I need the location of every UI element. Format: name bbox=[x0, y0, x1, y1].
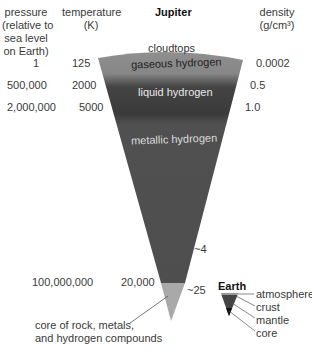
pressure-value: 1 bbox=[33, 57, 39, 70]
temperature-value: 5000 bbox=[79, 101, 103, 114]
pressure-header-line: pressure bbox=[2, 6, 50, 19]
pressure-value: 100,000,000 bbox=[32, 276, 93, 289]
temperature-header: temperature (K) bbox=[62, 6, 120, 32]
temperature-value: 20,000 bbox=[121, 276, 155, 289]
density-value: 0.0002 bbox=[256, 57, 290, 70]
pressure-header: pressure (relative to sea level on Earth… bbox=[2, 6, 50, 58]
pressure-value: 500,000 bbox=[7, 79, 47, 92]
pressure-header-line: on Earth) bbox=[2, 45, 50, 58]
jupiter-core bbox=[161, 283, 185, 321]
temperature-header-line: temperature bbox=[62, 6, 120, 19]
pressure-header-line: sea level bbox=[2, 32, 50, 45]
earth-atmosphere bbox=[221, 293, 238, 295]
liquid-hydrogen-label: liquid hydrogen bbox=[138, 86, 213, 98]
earth-layer-atmosphere: atmosphere bbox=[256, 288, 312, 301]
temperature-value: 2000 bbox=[72, 79, 96, 92]
temperature-header-line: (K) bbox=[62, 19, 120, 32]
cloudtops-label: cloudtops bbox=[148, 42, 195, 55]
earth-title: Earth bbox=[218, 280, 246, 293]
earth-core bbox=[226, 308, 232, 316]
core-label-line: core of rock, metals, bbox=[35, 319, 162, 332]
diagram-title: Jupiter bbox=[155, 6, 192, 19]
earth-layer-core: core bbox=[256, 327, 277, 340]
density-header-line: density bbox=[252, 6, 302, 19]
temperature-value: 125 bbox=[72, 57, 90, 70]
density-value: 0.5 bbox=[250, 79, 265, 92]
pressure-value: 2,000,000 bbox=[7, 101, 56, 114]
density-value: ~25 bbox=[187, 284, 206, 297]
density-value: ~4 bbox=[194, 243, 207, 256]
core-label-line: and hydrogen compounds bbox=[35, 332, 162, 345]
earth-layer-crust: crust bbox=[256, 301, 280, 314]
pressure-header-line: (relative to bbox=[2, 19, 50, 32]
density-header-line: (g/cm³) bbox=[252, 19, 302, 32]
core-label: core of rock, metals, and hydrogen compo… bbox=[35, 319, 162, 345]
earth-layer-mantle: mantle bbox=[256, 314, 289, 327]
density-value: 1.0 bbox=[245, 101, 260, 114]
density-header: density (g/cm³) bbox=[252, 6, 302, 32]
